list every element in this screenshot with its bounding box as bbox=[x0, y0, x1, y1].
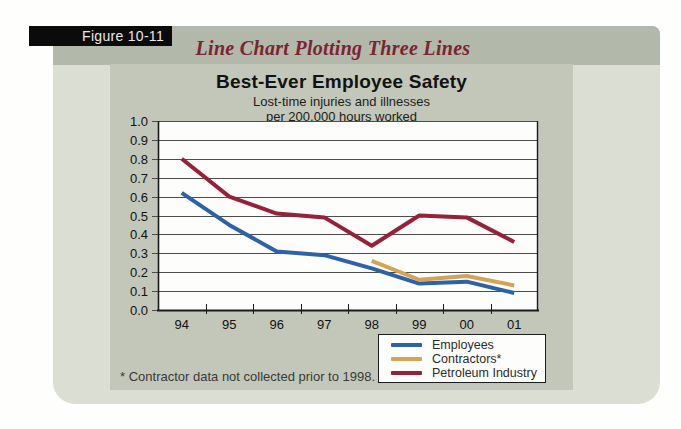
x-axis-label: 99 bbox=[412, 317, 426, 332]
legend-item: Petroleum Industry bbox=[391, 366, 545, 379]
x-axis-label: 97 bbox=[317, 317, 331, 332]
chart-title: Best-Ever Employee Safety bbox=[110, 71, 573, 93]
legend-item: Employees bbox=[391, 338, 545, 351]
chart-subtitle-line1: Lost-time injuries and illnesses bbox=[110, 94, 573, 109]
y-axis-label: 0.3 bbox=[130, 246, 148, 261]
figure-tab: Figure 10-11 bbox=[29, 26, 172, 46]
y-axis-label: 0.9 bbox=[130, 133, 148, 148]
legend-swatch bbox=[391, 371, 422, 375]
y-axis-label: 0.5 bbox=[130, 209, 148, 224]
x-axis-label: 95 bbox=[222, 317, 236, 332]
figure-tab-label: Figure 10-11 bbox=[82, 28, 164, 44]
figure-title: Line Chart Plotting Three Lines bbox=[113, 37, 553, 60]
y-axis-label: 0.6 bbox=[130, 190, 148, 205]
y-axis-label: 0.0 bbox=[130, 303, 148, 318]
y-axis-label: 0.4 bbox=[130, 227, 148, 242]
x-axis-label: 01 bbox=[507, 317, 521, 332]
x-axis-label: 94 bbox=[175, 317, 189, 332]
figure-page: Line Chart Plotting Three Lines Best-Eve… bbox=[0, 0, 681, 429]
x-axis-label: 98 bbox=[365, 317, 379, 332]
legend-label: Employees bbox=[432, 338, 494, 352]
y-axis-label: 0.2 bbox=[130, 265, 148, 280]
y-axis-label: 0.1 bbox=[130, 284, 148, 299]
y-axis-label: 0.8 bbox=[130, 152, 148, 167]
legend-label: Contractors* bbox=[432, 352, 501, 366]
figure-card: Line Chart Plotting Three Lines Best-Eve… bbox=[53, 26, 660, 404]
chart-legend: EmployeesContractors*Petroleum Industry bbox=[378, 334, 546, 383]
legend-label: Petroleum Industry bbox=[432, 366, 537, 380]
y-axis-label: 0.7 bbox=[130, 171, 148, 186]
x-axis-label: 00 bbox=[460, 317, 474, 332]
chart-panel: Best-Ever Employee Safety Lost-time inju… bbox=[110, 64, 573, 390]
line-chart: 0.00.10.20.30.40.50.60.70.80.91.09495969… bbox=[118, 114, 548, 334]
y-axis-label: 1.0 bbox=[130, 114, 148, 129]
chart-footnote: * Contractor data not collected prior to… bbox=[120, 369, 375, 384]
legend-swatch bbox=[391, 357, 422, 361]
legend-item: Contractors* bbox=[391, 352, 545, 365]
legend-swatch bbox=[391, 343, 422, 347]
x-axis-label: 96 bbox=[270, 317, 284, 332]
